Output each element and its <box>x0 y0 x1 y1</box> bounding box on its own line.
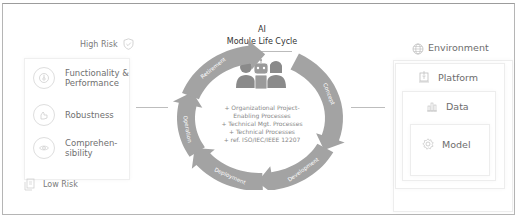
model-item: Model <box>422 138 471 150</box>
platform-item: Platform <box>418 71 478 83</box>
criterion-label-line1: Robustness <box>65 110 114 120</box>
platform-icon <box>418 71 430 83</box>
criterion-comprehensibility: Comprehen- sibility <box>33 137 117 159</box>
quality-criteria-box: Functionality & Performance Robustness C… <box>24 58 130 180</box>
globe-icon <box>412 40 424 59</box>
model-label: Model <box>442 139 471 150</box>
environment-label: Environment <box>428 42 489 53</box>
data-label: Data <box>446 101 469 112</box>
high-risk-label: High Risk <box>80 40 118 49</box>
shield-check-icon <box>123 38 134 50</box>
model-gear-icon <box>422 138 434 150</box>
stage-arrow-retirement <box>182 40 265 99</box>
criterion-label-line2: Performance <box>65 78 129 88</box>
low-risk-label: Low Risk <box>43 180 78 189</box>
title-line1: AI <box>222 24 302 36</box>
high-risk-label-group: High Risk <box>80 38 134 50</box>
stage-arrow-deployment <box>192 148 263 190</box>
model-box <box>410 124 490 176</box>
low-risk-label-group: Low Risk <box>24 178 78 191</box>
data-item: Data <box>426 100 469 112</box>
criterion-robustness: Robustness <box>33 104 114 126</box>
criterion-label-line1: Comprehen- <box>65 138 117 148</box>
criterion-label-line1: Functionality & <box>65 68 129 78</box>
platform-label: Platform <box>438 72 478 83</box>
document-stack-icon <box>24 178 36 191</box>
data-chart-icon <box>426 100 438 112</box>
criterion-functionality-performance: Functionality & Performance <box>33 67 129 89</box>
eye-brain-icon <box>33 137 55 159</box>
criterion-label-line2: sibility <box>65 148 117 158</box>
lifecycle-arrows: ConceptDevelopmentDeploymentOperationRet… <box>160 40 360 190</box>
gauge-icon <box>33 67 55 89</box>
robust-hand-icon <box>33 104 55 126</box>
stage-arrow-development <box>257 144 333 190</box>
